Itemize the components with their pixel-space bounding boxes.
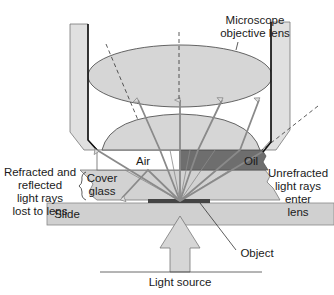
objective-lens-ellipse [88,45,272,107]
front-lens-dome [102,114,260,150]
microscope-oil-immersion-diagram [0,0,334,295]
objective-leader [236,42,238,50]
oil-label: Oil [238,155,264,168]
objective-lens-label: Microscope objective lens [205,14,305,40]
air-label: Air [128,155,158,168]
unrefracted-rays-label: Unrefracted light rays enter lens [262,167,334,219]
cover-glass-label: Cover glass [82,172,122,198]
object-label: Object [232,247,282,260]
light-source-label: Light source [140,276,220,289]
slide-label: Slide [50,208,84,221]
